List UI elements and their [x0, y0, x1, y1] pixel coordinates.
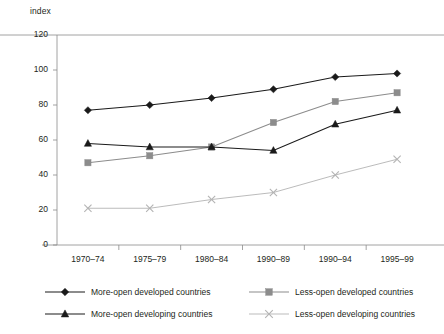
- y-axis-tick-label: 120: [22, 29, 48, 39]
- legend-item[interactable]: Less-open developed countries: [248, 283, 413, 301]
- square-marker: [85, 160, 91, 166]
- legend-marker-swatch: [44, 285, 86, 299]
- x-axis-tick-label: 1995–99: [362, 254, 432, 264]
- triangle-marker-swatch-icon: [44, 307, 86, 321]
- legend-label: More-open developed countries: [91, 287, 211, 297]
- series-line: [88, 74, 397, 111]
- legend-marker-swatch: [248, 285, 290, 299]
- x-axis-tick-label: 1980–84: [177, 254, 247, 264]
- series-cross: [84, 156, 400, 212]
- square-marker: [332, 98, 338, 104]
- diamond-marker-swatch-icon: [44, 285, 86, 299]
- square-marker: [270, 119, 276, 125]
- y-axis-tick-label: 100: [22, 64, 48, 74]
- diamond-marker: [393, 70, 400, 77]
- square-marker: [266, 289, 273, 296]
- y-axis-tick-label: 0: [22, 239, 48, 249]
- diamond-marker: [208, 94, 215, 101]
- legend-item[interactable]: Less-open developing countries: [248, 305, 415, 323]
- y-axis-tick-label: 40: [22, 169, 48, 179]
- x-axis-tick-label: 1970–74: [53, 254, 123, 264]
- y-axis-tick-label: 60: [22, 134, 48, 144]
- x-axis-tick-label: 1975–79: [115, 254, 185, 264]
- chart-figure: index More-open developed countriesLess-…: [0, 0, 444, 334]
- square-marker-swatch-icon: [248, 285, 290, 299]
- legend-label: More-open developing countries: [91, 309, 212, 319]
- series-line: [88, 93, 397, 163]
- triangle-marker: [393, 106, 400, 113]
- legend-label: Less-open developing countries: [295, 309, 415, 319]
- legend-item[interactable]: More-open developing countries: [44, 305, 212, 323]
- series-line: [88, 110, 397, 150]
- chart-legend: More-open developed countriesLess-open d…: [44, 283, 440, 327]
- legend-marker-swatch: [248, 307, 290, 321]
- diamond-marker: [84, 107, 91, 114]
- legend-label: Less-open developed countries: [295, 287, 413, 297]
- square-marker: [394, 90, 400, 96]
- triangle-marker: [84, 140, 91, 147]
- x-axis-tick-label: 1990–94: [300, 254, 370, 264]
- legend-item[interactable]: More-open developed countries: [44, 283, 211, 301]
- diamond-marker: [146, 101, 153, 108]
- diamond-marker: [270, 86, 277, 93]
- y-axis-tick-label: 20: [22, 204, 48, 214]
- y-axis-tick-label: 80: [22, 99, 48, 109]
- x-axis-tick-label: 1990–89: [238, 254, 308, 264]
- diamond-marker: [61, 288, 69, 296]
- square-marker: [147, 153, 153, 159]
- series-square: [85, 90, 400, 166]
- series-diamond: [84, 70, 400, 114]
- diamond-marker: [332, 73, 339, 80]
- series-triangle: [84, 106, 400, 153]
- legend-marker-swatch: [44, 307, 86, 321]
- series-line: [88, 159, 397, 208]
- cross-marker-swatch-icon: [248, 307, 290, 321]
